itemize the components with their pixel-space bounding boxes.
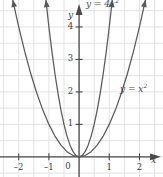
origin-label: 0 — [61, 161, 75, 171]
x-tick-label: 2 — [129, 162, 149, 172]
curve-arrowhead — [11, 0, 17, 8]
y-tick-label: 4 — [57, 21, 73, 31]
graph-figure: y = 4x2 y = x2 y x –2–11212340 — [0, 0, 163, 177]
y-tick-label: 2 — [57, 86, 73, 96]
curve-label-x-squared: y = x2 — [120, 84, 147, 94]
curve-arrowhead — [141, 0, 147, 8]
x-axis-name: x — [151, 155, 156, 165]
y-tick-label: 1 — [57, 118, 73, 128]
y-axis-name: y — [68, 10, 73, 20]
x-tick-label: –1 — [39, 162, 59, 172]
y-axis-arrowhead — [76, 4, 83, 15]
x-tick-label: 1 — [99, 162, 119, 172]
x-tick-label: –2 — [9, 162, 29, 172]
y-tick-label: 3 — [57, 53, 73, 63]
curve-label-4x-squared: y = 4x2 — [86, 0, 119, 9]
